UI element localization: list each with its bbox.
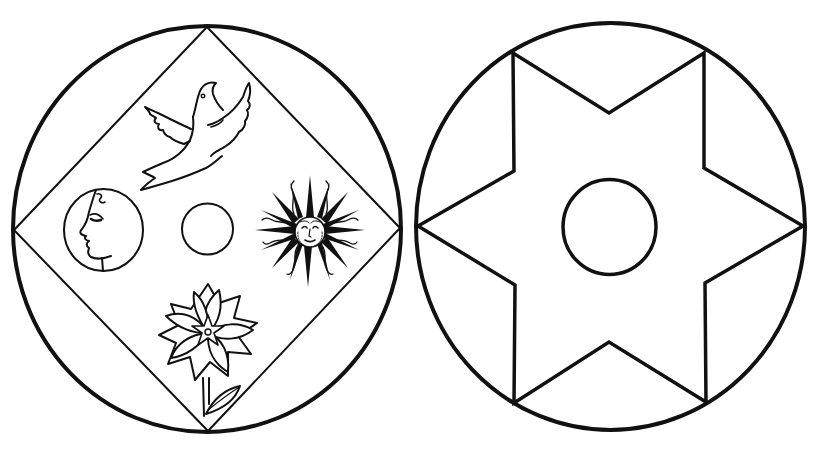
emblems-canvas: Circle with inscribed diamond containing… [0,0,817,449]
